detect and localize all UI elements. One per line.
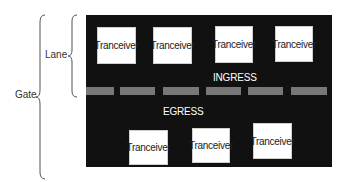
ingress-label: INGRESS <box>213 72 257 83</box>
divider-segment <box>86 87 114 95</box>
transceiver-top-4: Tranceiver <box>275 26 313 62</box>
divider-segment <box>163 87 199 95</box>
transceiver-bottom-1: Tranceiver <box>129 130 168 165</box>
divider-segment <box>206 87 241 95</box>
lane-brace-icon <box>68 14 78 98</box>
gate-brace-icon <box>36 14 46 180</box>
divider-segment <box>120 87 155 95</box>
gate-label: Gate <box>15 89 37 100</box>
divider-segment <box>248 87 283 95</box>
transceiver-top-3: Tranceiver <box>215 26 253 63</box>
transceiver-top-2: Tranceiver <box>153 27 192 64</box>
egress-label: EGRESS <box>163 106 203 117</box>
transceiver-bottom-3: Tranceiver <box>253 123 292 159</box>
lane-label: Lane <box>45 49 67 60</box>
divider-segment <box>291 87 327 95</box>
transceiver-bottom-2: Tranceiver <box>192 128 230 163</box>
transceiver-top-1: Tranceiver <box>97 27 136 64</box>
